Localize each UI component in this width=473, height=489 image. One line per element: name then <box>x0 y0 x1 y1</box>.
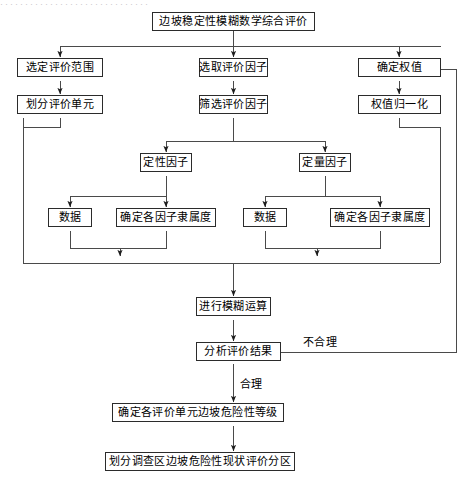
edge-label-reasonable: 合理 <box>240 379 263 390</box>
node-title[interactable]: 边坡稳定性模糊数学综合评价 <box>152 12 315 31</box>
node-select-scope[interactable]: 选定评价范围 <box>17 58 103 77</box>
node-fuzzy-operation[interactable]: 进行模糊运算 <box>196 297 271 316</box>
edge-label-unreasonable: 不合理 <box>303 337 337 348</box>
node-filter-factors[interactable]: 筛选评价因子 <box>199 95 268 114</box>
node-normalize-weights[interactable]: 权值归一化 <box>358 95 441 114</box>
node-membership-qualitative[interactable]: 确定各因子隶属度 <box>116 208 216 227</box>
wire-norm-down <box>399 118 440 263</box>
wire-data-qual-merge <box>70 231 120 256</box>
wire-membership-qual-merge <box>120 231 166 248</box>
node-determine-weights[interactable]: 确定权值 <box>358 58 441 77</box>
node-select-factors[interactable]: 选取评价因子 <box>199 58 268 77</box>
node-zoning[interactable]: 划分调查区边坡危险性现状评价分区 <box>105 452 295 471</box>
node-analyze-result[interactable]: 分析评价结果 <box>196 342 281 361</box>
node-data-qualitative[interactable]: 数据 <box>48 208 92 227</box>
node-data-quantitative[interactable]: 数据 <box>243 208 287 227</box>
wire-units-elbow <box>23 118 60 132</box>
node-membership-quantitative[interactable]: 确定各因子隶属度 <box>330 208 430 227</box>
node-qualitative-factor[interactable]: 定性因子 <box>140 153 192 172</box>
flowchart-canvas: ······························ <box>0 0 473 489</box>
node-quantitative-factor[interactable]: 定量因子 <box>299 153 351 172</box>
wire-data-quant-merge <box>265 231 317 256</box>
node-risk-level[interactable]: 确定各评价单元边坡危险性等级 <box>112 403 284 422</box>
scan-artifact-strip: ······························ <box>0 0 473 9</box>
wire-membership-quant-merge <box>317 231 380 248</box>
node-divide-units[interactable]: 划分评价单元 <box>17 95 103 114</box>
